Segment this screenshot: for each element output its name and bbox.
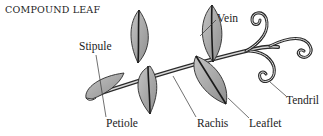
leaflet-1-bottom bbox=[138, 66, 157, 114]
leader-lines bbox=[96, 20, 286, 118]
label-tendril: Tendril bbox=[286, 94, 319, 106]
label-leaflet: Leaflet bbox=[249, 117, 282, 129]
label-stipule: Stipule bbox=[79, 40, 112, 52]
leaflet-2-bottom bbox=[194, 56, 227, 104]
rachis-leader bbox=[173, 76, 196, 117]
leaflet-1-top bbox=[131, 10, 148, 63]
label-vein: Vein bbox=[217, 12, 238, 24]
compound-leaf-diagram: COMPOUND LEAF Stipule Petiole Rachis Lea… bbox=[0, 0, 323, 136]
label-rachis: Rachis bbox=[197, 117, 228, 129]
tendril-leader bbox=[270, 82, 286, 96]
leaflet-leader bbox=[228, 98, 249, 118]
rachis-stem bbox=[92, 47, 278, 96]
label-petiole: Petiole bbox=[106, 117, 138, 129]
diagram-title: COMPOUND LEAF bbox=[5, 4, 100, 15]
leaf-illustration bbox=[0, 0, 323, 136]
